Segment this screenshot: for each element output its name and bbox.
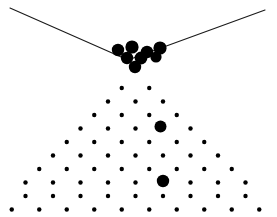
lattice-peg (106, 180, 110, 184)
ball (129, 61, 141, 73)
lattice-peg (161, 153, 165, 157)
lattice-peg (202, 167, 206, 171)
lattice-peg (37, 207, 41, 211)
lattice-peg (202, 207, 206, 211)
lattice-peg (147, 140, 151, 144)
lattice-peg (230, 207, 234, 211)
lattice-peg (78, 153, 82, 157)
lattice-peg (10, 207, 14, 211)
lattice-peg-enlarged (155, 121, 167, 133)
lattice-peg (106, 126, 110, 130)
figure-container (0, 0, 277, 217)
lattice-peg (92, 207, 96, 211)
lattice-peg (257, 207, 261, 211)
lattice-peg (216, 194, 220, 198)
lattice-peg (161, 99, 165, 103)
lattice-peg (243, 180, 247, 184)
lattice-peg (133, 194, 137, 198)
lattice-peg (78, 180, 82, 184)
lattice-peg (37, 167, 41, 171)
lattice-peg (230, 167, 234, 171)
lattice-peg (175, 140, 179, 144)
lattice-peg (133, 180, 137, 184)
lattice-peg (23, 194, 27, 198)
lattice-peg (216, 180, 220, 184)
funnel-walls-group (10, 8, 265, 60)
lattice-peg (188, 126, 192, 130)
lattice-peg (106, 153, 110, 157)
lattice-peg (51, 153, 55, 157)
ball (125, 40, 138, 53)
lattice-peg (92, 113, 96, 117)
lattice-peg (202, 140, 206, 144)
lattice-peg (133, 99, 137, 103)
lattice-peg (188, 153, 192, 157)
lattice-peg (78, 126, 82, 130)
lattice-peg (120, 140, 124, 144)
lattice-peg (147, 167, 151, 171)
lattice-peg (92, 140, 96, 144)
lattice-peg (65, 207, 69, 211)
lattice-peg (188, 194, 192, 198)
lattice-peg (106, 194, 110, 198)
lattice-peg (133, 126, 137, 130)
lattice-peg (78, 194, 82, 198)
lattice-peg (147, 207, 151, 211)
lattice-peg (175, 113, 179, 117)
lattice-peg (120, 167, 124, 171)
lattice-peg (65, 140, 69, 144)
lattice-peg (133, 153, 137, 157)
lattice-peg (147, 86, 151, 90)
lattice-peg (161, 194, 165, 198)
lattice-peg-enlarged (157, 175, 169, 187)
lattice-peg (120, 86, 124, 90)
lattice-peg (175, 167, 179, 171)
lattice-peg (92, 167, 96, 171)
lattice-peg (120, 207, 124, 211)
lattice-peg (147, 113, 151, 117)
lattice-peg (106, 99, 110, 103)
lattice-pegs-group (10, 86, 262, 212)
funnel-wall-left-wall (10, 8, 128, 60)
lattice-peg (175, 207, 179, 211)
lattice-peg (243, 194, 247, 198)
lattice-peg (188, 180, 192, 184)
lattice-peg (216, 153, 220, 157)
lattice-peg (23, 180, 27, 184)
lattice-peg (120, 113, 124, 117)
ball (150, 51, 161, 62)
lattice-peg (51, 180, 55, 184)
lattice-peg (51, 194, 55, 198)
funnel-lattice-diagram (0, 0, 277, 217)
lattice-peg (65, 167, 69, 171)
